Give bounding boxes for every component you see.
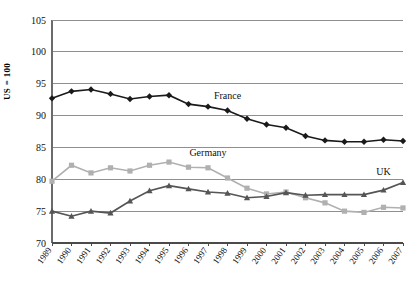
x-tick-label-2006: 2006: [367, 245, 386, 266]
data-point-marker: [205, 165, 210, 170]
data-point-marker: [166, 159, 171, 164]
series-germany: [49, 159, 405, 215]
y-tick-label-105: 105: [31, 15, 46, 26]
y-tick-label-80: 80: [36, 174, 46, 185]
x-tick-label-1999: 1999: [230, 245, 249, 266]
chart-container: US = 100 7075808590951001051989199019911…: [0, 0, 415, 287]
x-tick-label-1990: 1990: [55, 245, 74, 266]
data-point-marker: [381, 205, 386, 210]
data-point-marker: [361, 138, 367, 144]
data-point-marker: [244, 116, 250, 122]
data-point-marker: [69, 163, 74, 168]
data-point-marker: [302, 133, 308, 139]
data-point-marker: [380, 137, 386, 143]
data-point-marker: [263, 121, 269, 127]
x-tick-label-1995: 1995: [152, 245, 171, 266]
data-point-marker: [341, 138, 347, 144]
data-point-marker: [166, 92, 172, 98]
y-tick-label-85: 85: [36, 142, 46, 153]
series-annotation-germany: Germany: [189, 147, 226, 158]
data-point-marker: [361, 210, 366, 215]
x-tick-label-1993: 1993: [113, 245, 132, 266]
x-tick-label-1996: 1996: [172, 245, 191, 266]
x-tick-label-2002: 2002: [289, 245, 308, 265]
data-point-marker: [49, 95, 55, 101]
data-point-marker: [224, 107, 230, 113]
y-tick-label-100: 100: [31, 46, 46, 57]
x-tick-label-2003: 2003: [308, 245, 327, 266]
data-point-marker: [88, 86, 94, 92]
x-tick-label-2007: 2007: [386, 245, 405, 266]
data-point-marker: [205, 103, 211, 109]
x-tick-label-1997: 1997: [191, 245, 210, 266]
data-point-marker: [88, 170, 93, 175]
x-tick-label-1994: 1994: [133, 245, 152, 266]
line-chart: 7075808590951001051989199019911992199319…: [0, 0, 415, 287]
series-annotation-uk: UK: [376, 166, 391, 177]
data-point-marker: [322, 137, 328, 143]
y-tick-label-75: 75: [36, 206, 46, 217]
data-point-marker: [400, 179, 406, 185]
x-tick-label-2004: 2004: [328, 245, 347, 266]
x-tick-label-1998: 1998: [211, 245, 230, 266]
data-point-marker: [108, 165, 113, 170]
data-point-marker: [185, 101, 191, 107]
data-point-marker: [107, 91, 113, 97]
x-tick-label-2001: 2001: [269, 245, 288, 265]
y-tick-label-95: 95: [36, 78, 46, 89]
x-tick-label-2005: 2005: [347, 245, 366, 266]
data-point-marker: [127, 168, 132, 173]
series-line-germany: [52, 162, 403, 212]
x-tick-label-2000: 2000: [250, 245, 269, 266]
data-point-marker: [400, 138, 406, 144]
data-point-marker: [146, 93, 152, 99]
series-uk: [49, 179, 406, 218]
data-point-marker: [400, 205, 405, 210]
y-tick-label-90: 90: [36, 110, 46, 121]
data-point-marker: [147, 163, 152, 168]
data-point-marker: [342, 209, 347, 214]
x-tick-label-1991: 1991: [74, 245, 93, 265]
data-point-marker: [68, 88, 74, 94]
data-point-marker: [225, 175, 230, 180]
data-point-marker: [186, 165, 191, 170]
data-point-marker: [49, 179, 54, 184]
data-point-marker: [244, 186, 249, 191]
x-tick-label-1992: 1992: [94, 245, 113, 265]
data-point-marker: [322, 200, 327, 205]
series-annotation-france: France: [214, 90, 242, 101]
data-point-marker: [283, 124, 289, 130]
data-point-marker: [127, 96, 133, 102]
